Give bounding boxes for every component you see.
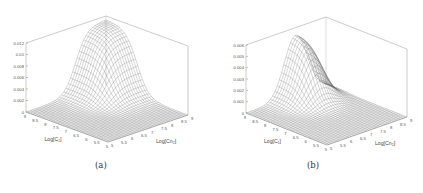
svg-text:6: 6	[131, 136, 134, 141]
svg-text:0.006: 0.006	[14, 75, 25, 80]
svg-text:0.003: 0.003	[234, 77, 245, 82]
panel-a: 00.0020.0040.0060.0080.010.01298.587.576…	[0, 0, 212, 193]
svg-text:0.012: 0.012	[14, 41, 25, 46]
svg-text:6: 6	[85, 137, 88, 142]
svg-text:8.5: 8.5	[32, 118, 38, 123]
svg-text:6.5: 6.5	[360, 136, 366, 141]
svg-text:7: 7	[151, 130, 154, 135]
surface-mesh	[26, 20, 188, 142]
caption-b: (b)	[307, 160, 319, 170]
svg-text:8: 8	[171, 123, 174, 128]
svg-text:9: 9	[24, 114, 27, 119]
svg-text:8.5: 8.5	[400, 122, 406, 127]
svg-text:0.01: 0.01	[16, 52, 25, 57]
svg-text:7: 7	[65, 129, 68, 134]
svg-text:5.5: 5.5	[340, 143, 346, 148]
x-axis-label: Log[C₁]	[264, 138, 282, 144]
svg-text:0.006: 0.006	[234, 43, 245, 48]
svg-text:7.5: 7.5	[380, 129, 386, 134]
svg-text:6.5: 6.5	[293, 135, 299, 140]
svg-text:9: 9	[410, 118, 413, 123]
svg-text:0.004: 0.004	[14, 87, 25, 92]
svg-text:5.5: 5.5	[313, 143, 319, 148]
svg-text:5: 5	[330, 146, 333, 151]
svg-text:8.5: 8.5	[252, 119, 258, 124]
svg-text:0.002: 0.002	[234, 88, 245, 93]
surface-plot-b: 00.0010.0020.0030.0040.0050.00698.587.57…	[211, 0, 423, 160]
panel-b: 00.0010.0020.0030.0040.0050.00698.587.57…	[211, 0, 423, 193]
svg-text:5: 5	[325, 147, 328, 152]
svg-text:6: 6	[305, 139, 308, 144]
svg-text:0.002: 0.002	[14, 98, 25, 103]
svg-text:5: 5	[111, 143, 114, 148]
svg-text:6: 6	[350, 139, 353, 144]
svg-text:9: 9	[191, 116, 194, 121]
svg-text:0.008: 0.008	[14, 64, 25, 69]
caption-a: (a)	[95, 160, 107, 170]
y-axis-label: Log[Cn₂]	[375, 140, 396, 146]
svg-text:7: 7	[370, 132, 373, 137]
svg-text:6.5: 6.5	[73, 133, 79, 138]
svg-text:0.005: 0.005	[234, 54, 245, 59]
svg-text:5: 5	[106, 144, 109, 149]
svg-text:8: 8	[264, 123, 267, 128]
svg-text:5.5: 5.5	[121, 140, 127, 145]
svg-text:8: 8	[390, 125, 393, 130]
svg-text:7.5: 7.5	[272, 127, 278, 132]
svg-text:7.5: 7.5	[53, 125, 59, 130]
svg-text:7: 7	[284, 131, 287, 136]
surface-plot-a: 00.0020.0040.0060.0080.010.01298.587.576…	[0, 0, 212, 160]
svg-text:0.004: 0.004	[234, 65, 245, 70]
y-axis-label: Log[Cn₂]	[156, 138, 177, 144]
svg-text:9: 9	[244, 115, 247, 120]
svg-text:0.001: 0.001	[234, 99, 245, 104]
svg-text:8.5: 8.5	[181, 119, 187, 124]
x-axis-label: Log[C₁]	[44, 136, 62, 142]
svg-text:5.5: 5.5	[94, 140, 100, 145]
svg-text:8: 8	[44, 122, 47, 127]
svg-text:6.5: 6.5	[141, 133, 147, 138]
svg-text:7.5: 7.5	[161, 126, 167, 131]
